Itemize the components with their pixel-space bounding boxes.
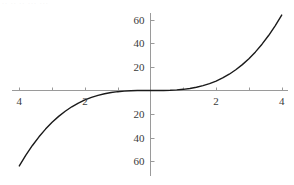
x-tick-label: 4 — [279, 95, 285, 107]
y-tick-label: 60 — [119, 14, 145, 26]
y-tick-label: 20 — [119, 108, 145, 120]
x-tick-label: 2 — [82, 95, 88, 107]
x-tick-label: 4 — [17, 95, 23, 107]
cubic-function-plot: ·· ·· ·· ··· ··· 4224 604020204060 — [0, 0, 294, 185]
y-tick-label: 40 — [119, 132, 145, 144]
axes-group — [12, 13, 288, 176]
y-tick-label: 40 — [119, 37, 145, 49]
y-tick-label: 20 — [119, 61, 145, 73]
x-tick-label: 2 — [213, 95, 219, 107]
y-tick-label: 60 — [119, 155, 145, 167]
plot-canvas — [0, 0, 294, 185]
